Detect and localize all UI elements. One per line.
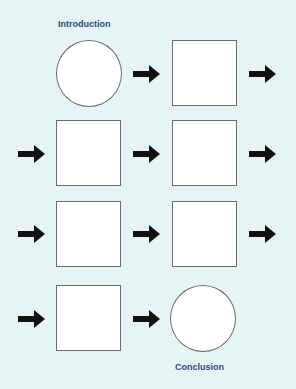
introduction-label: Introduction <box>58 19 111 29</box>
start-circle <box>56 40 122 107</box>
arrow-icon <box>18 309 46 329</box>
step-box-6 <box>56 285 121 351</box>
arrow-icon <box>133 64 161 84</box>
arrow-icon <box>133 309 161 329</box>
end-circle <box>170 285 236 352</box>
step-box-4 <box>56 201 121 267</box>
step-box-2 <box>56 120 121 186</box>
step-box-1 <box>172 40 237 106</box>
arrow-icon <box>249 144 277 164</box>
arrow-icon <box>133 224 161 244</box>
step-box-3 <box>172 120 237 186</box>
arrow-icon <box>249 224 277 244</box>
arrow-icon <box>18 144 46 164</box>
arrow-icon <box>133 144 161 164</box>
conclusion-label: Conclusion <box>175 362 224 372</box>
step-box-5 <box>172 201 237 267</box>
arrow-icon <box>18 224 46 244</box>
arrow-icon <box>249 64 277 84</box>
